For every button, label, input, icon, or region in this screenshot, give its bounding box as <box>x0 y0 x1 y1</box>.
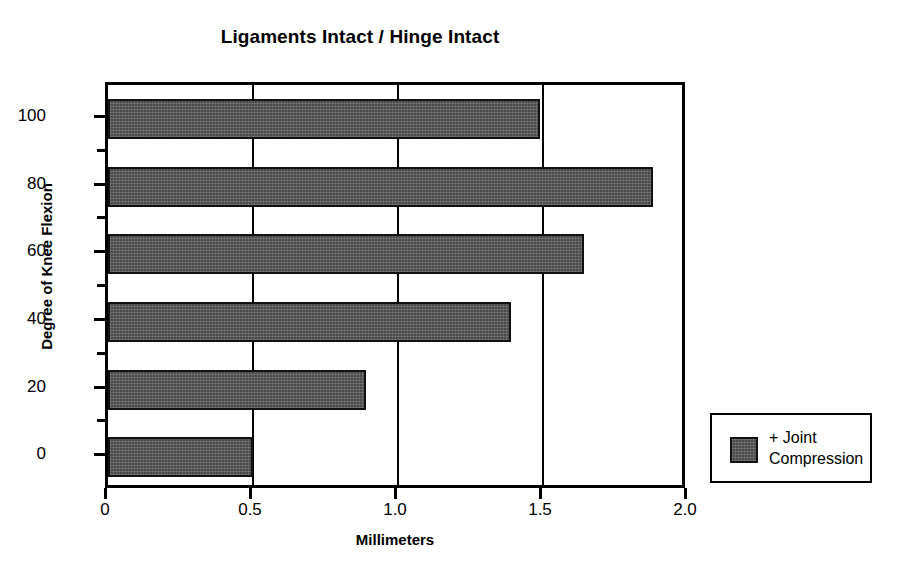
bar-60-deg <box>108 234 584 274</box>
legend: + Joint Compression <box>710 413 872 483</box>
x-tick-label-1.0: 1.0 <box>365 500 425 520</box>
x-tick-label-2.0: 2.0 <box>655 500 715 520</box>
legend-label-joint-compression: + Joint Compression <box>769 427 869 469</box>
y-tick-label-40: 40 <box>0 310 46 327</box>
y-tick-80 <box>94 183 105 186</box>
y-tick-label-0: 0 <box>0 445 46 462</box>
y-tick-20 <box>94 386 105 389</box>
bar-80-deg <box>108 167 653 207</box>
y-tick-100 <box>94 115 105 118</box>
y-tick-60 <box>94 250 105 253</box>
y-tick-label-60: 60 <box>0 242 46 259</box>
y-minor-tick-90 <box>97 149 106 152</box>
y-tick-label-80: 80 <box>0 175 46 192</box>
y-minor-tick-50 <box>97 284 106 287</box>
gridline-x-1.0 <box>397 85 399 485</box>
y-tick-label-20: 20 <box>0 378 46 395</box>
y-minor-tick-30 <box>97 352 106 355</box>
x-tick-0.5 <box>249 488 252 499</box>
bar-100-deg <box>108 99 540 139</box>
bar-20-deg <box>108 370 366 410</box>
x-tick-1.0 <box>394 488 397 499</box>
x-tick-0 <box>104 488 107 499</box>
x-tick-label-0.5: 0.5 <box>220 500 280 520</box>
bar-0-deg <box>108 437 253 477</box>
plot-area <box>105 82 685 488</box>
bar-40-deg <box>108 302 511 342</box>
x-tick-label-0: 0 <box>75 500 135 520</box>
x-tick-1.5 <box>539 488 542 499</box>
x-tick-label-1.5: 1.5 <box>510 500 570 520</box>
y-tick-label-100: 100 <box>0 107 46 124</box>
x-axis-title: Millimeters <box>105 531 685 548</box>
chart-title: Ligaments Intact / Hinge Intact <box>0 26 720 48</box>
x-tick-2.0 <box>684 488 687 499</box>
gridline-x-1.5 <box>542 85 544 485</box>
y-tick-40 <box>94 318 105 321</box>
y-minor-tick-10 <box>97 419 106 422</box>
gridline-x-0.5 <box>252 85 254 485</box>
y-minor-tick-70 <box>97 216 106 219</box>
y-tick-0 <box>94 453 105 456</box>
plot-inner <box>108 85 682 485</box>
legend-swatch-joint-compression <box>730 437 758 463</box>
